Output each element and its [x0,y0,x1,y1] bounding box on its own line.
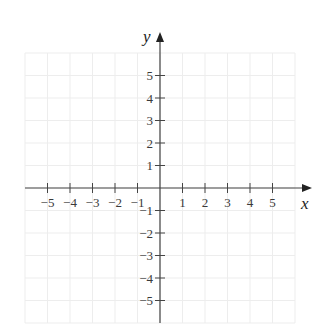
y-axis-arrow-icon [156,32,164,42]
y-axis-label: y [141,27,151,46]
coordinate-plane: −5−4−3−2−112345 54321−1−2−3−4−5 x y [0,0,317,336]
y-tick-label: 2 [147,136,154,151]
x-tick-label: 2 [202,195,209,210]
x-tick-label: −2 [108,195,122,210]
y-tick-label: 5 [147,68,154,83]
x-tick-label: 3 [224,195,231,210]
y-tick-label: −1 [139,203,153,218]
x-axis-label: x [300,194,309,213]
y-tick-label: −5 [139,293,153,308]
x-tick-label: 4 [247,195,254,210]
x-axis-arrow-icon [302,184,312,192]
x-tick-label: −4 [63,195,77,210]
x-tick-label: −3 [86,195,100,210]
y-tick-label: 3 [147,113,154,128]
y-tick-label: 4 [147,91,154,106]
x-tick-label: 5 [269,195,276,210]
y-tick-label: 1 [147,158,154,173]
y-tick-label: −2 [139,226,153,241]
x-ticks: −5−4−3−2−112345 [41,183,276,210]
x-tick-label: −5 [41,195,55,210]
x-tick-label: 1 [179,195,186,210]
y-tick-label: −4 [139,271,153,286]
y-tick-label: −3 [139,248,153,263]
